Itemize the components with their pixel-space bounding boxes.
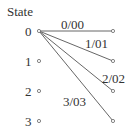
edge-label-0-0: 0/00 <box>61 18 84 31</box>
right-node-1 <box>111 59 114 62</box>
state-label-1: 1 <box>25 55 32 68</box>
right-node-3 <box>111 119 114 122</box>
state-header: State <box>7 5 33 18</box>
left-node-2 <box>37 89 40 92</box>
left-node-1 <box>37 59 40 62</box>
left-node-0 <box>37 29 40 32</box>
left-node-3 <box>37 119 40 122</box>
right-node-2 <box>111 89 114 92</box>
edge-label-0-2: 2/02 <box>102 72 125 85</box>
edge-label-0-1: 1/01 <box>85 37 108 50</box>
state-label-0: 0 <box>25 25 32 38</box>
state-label-2: 2 <box>25 85 32 98</box>
state-label-3: 3 <box>25 115 32 128</box>
edge-label-0-3: 3/03 <box>63 95 86 108</box>
right-node-0 <box>111 29 114 32</box>
